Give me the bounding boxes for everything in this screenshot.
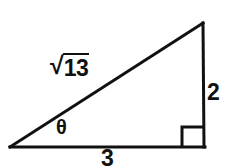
- triangle-drawing: [0, 0, 231, 168]
- angle-theta-label: θ: [56, 117, 67, 137]
- hypotenuse-line: [10, 23, 203, 147]
- opposite-leg-label: 2: [207, 81, 220, 104]
- adjacent-leg-label: 3: [101, 147, 114, 168]
- hypotenuse-label: √ 13: [50, 53, 89, 80]
- right-angle-marker: [182, 127, 203, 147]
- radicand-value: 13: [63, 53, 90, 80]
- right-triangle-figure: √ 13 θ 2 3: [0, 0, 231, 168]
- radical-sign-icon: √: [50, 53, 64, 77]
- opposite-leg-line: [203, 23, 204, 147]
